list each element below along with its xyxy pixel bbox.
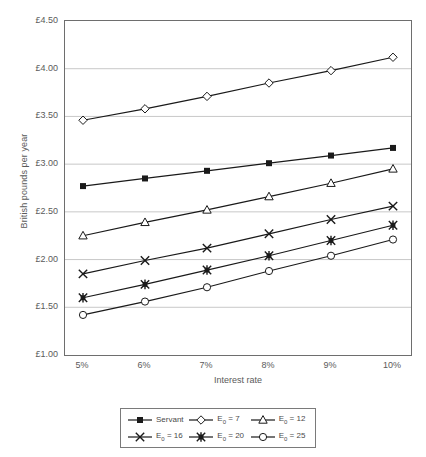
- y-axis-tick-label: £1.50: [14, 301, 58, 311]
- legend-marker-open-circle-icon: [250, 431, 276, 443]
- y-axis-tick-label: £3.50: [14, 110, 58, 120]
- data-point-open-circle: [141, 298, 148, 305]
- x-axis-label: Interest rate: [64, 375, 412, 385]
- data-point-open-diamond: [197, 415, 205, 423]
- data-point-cross: [389, 202, 397, 210]
- legend-marker-filled-star-icon: [188, 431, 214, 443]
- data-point-filled-square: [266, 160, 272, 166]
- y-axis-tick-label: £2.00: [14, 254, 58, 264]
- series-3: [79, 202, 397, 278]
- series-5: [79, 236, 396, 319]
- series-line: [83, 240, 393, 315]
- legend-label: E0 = 20: [217, 432, 244, 442]
- series-line: [83, 148, 393, 186]
- data-point-filled-star: [141, 280, 149, 290]
- legend-item-e0-25[interactable]: E0 = 25: [250, 431, 311, 443]
- legend-label: E0 = 16: [156, 432, 183, 442]
- data-point-filled-square: [142, 175, 148, 181]
- legend-label: E0 = 7: [217, 415, 239, 425]
- series-0: [80, 145, 396, 189]
- legend-label: E0 = 12: [279, 415, 306, 425]
- data-point-filled-square: [328, 153, 334, 159]
- series-line: [83, 57, 393, 120]
- data-point-filled-star: [203, 265, 211, 275]
- data-point-open-circle: [203, 284, 210, 291]
- data-point-open-circle: [259, 433, 266, 440]
- plot-area: [64, 20, 412, 356]
- legend-marker-open-diamond-icon: [188, 414, 214, 426]
- legend-item-servant[interactable]: Servant: [127, 414, 188, 426]
- legend-marker-open-triangle-icon: [250, 414, 276, 426]
- x-axis-tick-label: 8%: [248, 360, 288, 370]
- data-point-open-diamond: [389, 53, 397, 61]
- plot-svg: [65, 21, 411, 355]
- data-point-cross: [79, 270, 87, 278]
- legend-marker-filled-square-icon: [127, 414, 153, 426]
- data-point-filled-star: [265, 251, 273, 261]
- data-point-filled-star: [327, 236, 335, 246]
- x-axis-tick-label: 9%: [310, 360, 350, 370]
- series-line: [83, 206, 393, 274]
- y-axis-tick-label: £3.00: [14, 158, 58, 168]
- series-2: [79, 165, 397, 239]
- data-point-open-circle: [389, 236, 396, 243]
- data-point-filled-square: [204, 168, 210, 174]
- data-point-filled-square: [390, 145, 396, 151]
- chart-legend: ServantE0 = 7E0 = 12E0 = 16E0 = 20E0 = 2…: [120, 408, 316, 448]
- y-axis-tick-label: £1.00: [14, 349, 58, 359]
- chart-figure: British pounds per year £1.00£1.50£2.00£…: [0, 0, 426, 457]
- legend-marker-cross-icon: [127, 431, 153, 443]
- legend-item-e0-7[interactable]: E0 = 7: [188, 414, 249, 426]
- x-axis-tick-label: 7%: [186, 360, 226, 370]
- data-point-open-circle: [265, 267, 272, 274]
- data-point-open-circle: [79, 311, 86, 318]
- y-axis-tick-label: £4.50: [14, 15, 58, 25]
- data-point-filled-star: [389, 220, 397, 230]
- data-point-filled-square: [80, 183, 86, 189]
- series-4: [79, 220, 397, 302]
- y-axis-tick-label: £2.50: [14, 206, 58, 216]
- y-axis-tick-label: £4.00: [14, 63, 58, 73]
- data-point-filled-square: [137, 417, 143, 423]
- data-point-open-diamond: [327, 66, 335, 74]
- legend-item-e0-20[interactable]: E0 = 20: [188, 431, 249, 443]
- data-point-open-triangle: [389, 165, 397, 173]
- data-point-open-diamond: [79, 116, 87, 124]
- x-axis-tick-label: 5%: [62, 360, 102, 370]
- series-line: [83, 169, 393, 236]
- series-1: [79, 53, 397, 124]
- legend-item-e0-16[interactable]: E0 = 16: [127, 431, 188, 443]
- data-point-cross: [327, 215, 335, 223]
- data-point-open-diamond: [141, 105, 149, 113]
- x-axis-tick-label: 10%: [372, 360, 412, 370]
- series-line: [83, 225, 393, 298]
- data-point-open-circle: [327, 252, 334, 259]
- legend-label: Servant: [156, 416, 184, 424]
- data-point-filled-star: [79, 293, 87, 303]
- data-point-open-diamond: [203, 92, 211, 100]
- x-axis-tick-label: 6%: [124, 360, 164, 370]
- legend-item-e0-12[interactable]: E0 = 12: [250, 414, 311, 426]
- legend-label: E0 = 25: [279, 432, 306, 442]
- data-point-open-diamond: [265, 79, 273, 87]
- data-point-cross: [265, 230, 273, 238]
